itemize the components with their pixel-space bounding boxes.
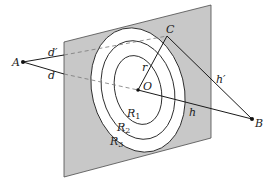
point-o (136, 88, 140, 92)
point-a (21, 60, 25, 64)
label-h-prime: h′ (216, 73, 226, 86)
label-b: B (254, 117, 263, 130)
point-b (250, 117, 254, 121)
label-a: A (11, 56, 20, 69)
label-d: d (48, 69, 55, 82)
label-d-prime: d′ (48, 46, 58, 59)
label-r: r (142, 61, 148, 74)
label-h: h (189, 106, 196, 119)
segment-d-solid (23, 62, 64, 74)
label-c: C (166, 23, 175, 36)
segment-d-prime-solid (23, 55, 64, 62)
fresnel-zone-diagram: A B C O d′ d h′ h r R1 R2 R3 (0, 0, 270, 182)
label-o: O (143, 80, 152, 93)
diagram-canvas: A B C O d′ d h′ h r R1 R2 R3 (0, 0, 270, 182)
